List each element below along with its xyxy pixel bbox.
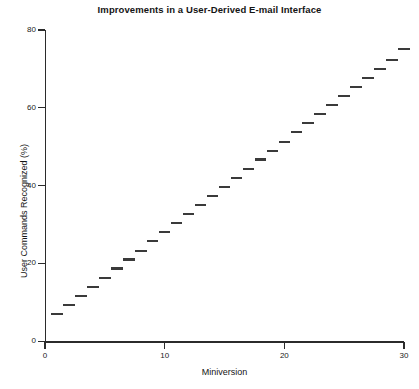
data-point-dash <box>255 158 267 160</box>
data-point-dash <box>291 131 303 133</box>
data-point-dash <box>195 204 207 206</box>
x-axis-label: Miniversion <box>45 367 404 377</box>
data-point-dash <box>350 86 362 88</box>
data-point-dash <box>386 59 398 61</box>
data-point-dash <box>147 240 159 242</box>
data-point-dash <box>267 150 279 152</box>
data-point-dash <box>374 68 386 70</box>
data-point-dash <box>231 177 243 179</box>
data-point-dash <box>338 95 350 97</box>
y-axis-line <box>45 30 46 342</box>
x-tick-mark <box>284 342 285 349</box>
chart-figure: Improvements in a User-Derived E-mail In… <box>0 0 419 389</box>
data-point-dash <box>302 122 314 124</box>
data-point-dash <box>123 258 135 260</box>
data-point-dash <box>243 168 255 170</box>
y-axis-label: User Commands Recognized (%) <box>19 144 29 278</box>
data-point-dash <box>135 250 147 252</box>
y-tick-mark <box>38 185 45 186</box>
y-tick-mark <box>38 29 45 30</box>
data-point-dash <box>362 77 374 79</box>
data-point-dash <box>159 231 171 233</box>
data-point-dash <box>219 186 231 188</box>
data-point-dash <box>326 104 338 106</box>
data-point-dash <box>279 141 291 143</box>
x-tick-mark <box>44 342 45 349</box>
chart-title: Improvements in a User-Derived E-mail In… <box>0 4 419 15</box>
data-point-dash <box>207 195 219 197</box>
data-point-dash <box>63 304 75 306</box>
x-tick-label: 0 <box>30 351 60 360</box>
x-tick-mark <box>164 342 165 349</box>
data-point-dash <box>99 277 111 279</box>
data-point-dash <box>111 267 123 269</box>
x-tick-mark <box>403 342 404 349</box>
data-point-dash <box>183 213 195 215</box>
data-point-dash <box>51 313 63 315</box>
x-axis-line <box>45 341 404 342</box>
y-tick-mark <box>38 107 45 108</box>
x-tick-label: 30 <box>389 351 419 360</box>
data-point-dash <box>171 222 183 224</box>
y-tick-label: 0 <box>6 336 36 345</box>
y-tick-label: 80 <box>6 25 36 34</box>
data-point-dash <box>87 286 99 288</box>
x-tick-label: 20 <box>269 351 299 360</box>
data-point-dash <box>75 295 87 297</box>
y-tick-label: 60 <box>6 103 36 112</box>
x-tick-label: 10 <box>150 351 180 360</box>
data-point-dash <box>314 113 326 115</box>
y-tick-mark <box>38 263 45 264</box>
data-point-dash <box>398 48 410 50</box>
